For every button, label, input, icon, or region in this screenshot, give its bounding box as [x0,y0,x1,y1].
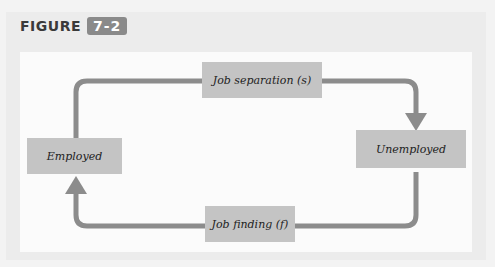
arrowhead-up-icon [65,176,87,194]
employed-box: Employed [27,138,122,174]
employed-label: Employed [47,150,102,163]
job-finding-label: Job finding (f) [212,218,289,231]
job-separation-box: Job separation (s) [202,62,322,98]
unemployed-box: Unemployed [356,130,466,168]
job-separation-label: Job separation (s) [213,74,312,87]
arrowhead-down-icon [405,113,427,131]
unemployed-label: Unemployed [376,143,446,156]
job-finding-box: Job finding (f) [205,206,295,242]
